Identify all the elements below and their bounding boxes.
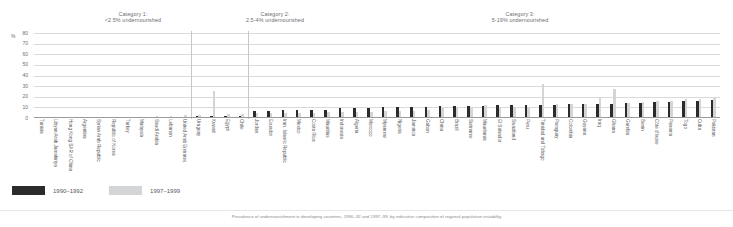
x-axis-label: Panama	[663, 119, 677, 175]
x-axis-label-text: Brazil	[453, 119, 458, 131]
bar-group	[434, 33, 448, 118]
bar-group	[120, 33, 134, 118]
bar-1997-1999	[713, 98, 716, 118]
bar-group	[63, 33, 77, 118]
bar-group	[277, 33, 291, 118]
x-axis-label: Algeria	[349, 119, 363, 175]
x-axis-label: Uruguay	[191, 119, 205, 175]
bar-group	[91, 33, 105, 118]
x-axis-label-text: Algeria	[353, 119, 358, 133]
bar-group	[520, 33, 534, 118]
chart-page: Category 1: <2.5% undernourished Categor…	[0, 0, 733, 227]
x-axis-label: Jamaica	[406, 119, 420, 175]
x-axis-label: Mauritania	[477, 119, 491, 175]
bar-1997-1999	[584, 104, 587, 118]
x-axis-label-text: Cuba	[697, 119, 702, 130]
x-axis-label-text: El Salvador	[496, 119, 501, 143]
x-axis-label: Republic of Korea	[105, 119, 119, 175]
y-tick-label: 30	[8, 84, 28, 89]
x-axis-label: Argentina	[77, 119, 91, 175]
x-axis-label-text: Indonesia	[339, 119, 344, 139]
x-axis-label: Peru	[520, 119, 534, 175]
x-axis-label-text: Mauritius	[325, 119, 330, 138]
x-axis-label-text: China	[439, 119, 444, 131]
bar-1997-1999	[556, 104, 559, 118]
x-axis-label: Pakistan	[706, 119, 720, 175]
x-axis-label: Cuba	[692, 119, 706, 175]
x-axis-label: Côte d'Ivoire	[649, 119, 663, 175]
bar-group	[105, 33, 119, 118]
x-axis-label-text: Lebanon	[168, 119, 173, 137]
x-axis-label-text: Morocco	[368, 119, 373, 137]
x-axis-label-text: Panama	[668, 119, 673, 136]
x-axis-label-text: Jamaica	[411, 119, 416, 136]
x-axis-label-text: Iraq	[596, 119, 601, 127]
x-axis-label-text: Togo	[682, 119, 687, 129]
bar-group	[406, 33, 420, 118]
bar-group	[606, 33, 620, 118]
x-axis-label: Morocco	[363, 119, 377, 175]
x-axis-label: Kuwait	[206, 119, 220, 175]
legend-label-1997-1999: 1997–1999	[150, 188, 180, 194]
bar-group	[191, 33, 205, 118]
bar-1997-1999	[613, 89, 616, 118]
legend-swatch-1990-1992	[12, 186, 45, 195]
x-axis-category-labels: TunisiaLibyan Arab JamahiriyaHong Kong S…	[34, 119, 720, 175]
plot-area	[34, 33, 720, 118]
bar-1997-1999	[599, 97, 602, 118]
y-tick-label: 10	[8, 105, 28, 110]
x-axis-label: Paraguay	[549, 119, 563, 175]
x-axis-label-text: Chile	[239, 119, 244, 129]
x-axis-label: Ghana	[606, 119, 620, 175]
x-axis-label: Benin	[634, 119, 648, 175]
x-axis-label: Colombia	[563, 119, 577, 175]
bar-group	[34, 33, 48, 118]
x-axis-label: Brazil	[449, 119, 463, 175]
bar-group	[377, 33, 391, 118]
x-axis-label-text: Libyan Arab Jamahiriya	[53, 119, 58, 167]
y-tick-label: 20	[8, 94, 28, 99]
x-axis-label-text: United Arab Emirates	[182, 119, 187, 162]
bar-group	[48, 33, 62, 118]
bar-group	[592, 33, 606, 118]
x-axis-label-text: Republic of Korea	[110, 119, 115, 156]
x-axis-label: Guyana	[577, 119, 591, 175]
y-tick-label: 50	[8, 62, 28, 67]
bar-group	[563, 33, 577, 118]
x-axis-label-text: Pakistan	[711, 119, 716, 137]
bar-1997-1999	[213, 91, 216, 118]
x-axis-label-text: Benin	[639, 119, 644, 131]
bar-group	[363, 33, 377, 118]
category-header-2-line2: 2.5-4% undernourished	[190, 17, 360, 23]
bar-group	[620, 33, 634, 118]
bar-group	[306, 33, 320, 118]
bar-group	[206, 33, 220, 118]
bar-group	[692, 33, 706, 118]
bar-group	[463, 33, 477, 118]
x-axis-label-text: Malaysia	[139, 119, 144, 137]
bar-group	[263, 33, 277, 118]
y-tick-label: 40	[8, 73, 28, 78]
x-axis-label: Togo	[677, 119, 691, 175]
x-axis-label-text: Kuwait	[210, 119, 215, 133]
y-tick-label: 0	[8, 116, 28, 121]
x-axis-label-text: Mexico	[296, 119, 301, 134]
bar-1997-1999	[685, 99, 688, 118]
bar-group	[549, 33, 563, 118]
bar-1997-1999	[570, 104, 573, 118]
x-axis-label: Tunisia	[34, 119, 48, 175]
chart-legend: 1990–1992 1997–1999	[12, 186, 180, 195]
x-axis-label-text: Trinidad and Tobago	[539, 119, 544, 161]
x-axis-label-text: Swaziland	[511, 119, 516, 140]
bar-group	[148, 33, 162, 118]
category-header-3-line2: 5-19% undernourished	[395, 17, 645, 23]
legend-swatch-1997-1999	[109, 186, 142, 195]
chart-footnote: Prevalence of undernourishment in develo…	[0, 214, 733, 219]
x-axis-label-text: Peru	[525, 119, 530, 129]
x-axis-label: Chile	[234, 119, 248, 175]
x-axis-label: Costa Rica	[306, 119, 320, 175]
x-axis-label-text: Syrian Arab Republic	[96, 119, 101, 162]
category-header-3: Category 3: 5-19% undernourished	[395, 11, 645, 23]
bar-group	[492, 33, 506, 118]
x-axis-label: Lebanon	[163, 119, 177, 175]
